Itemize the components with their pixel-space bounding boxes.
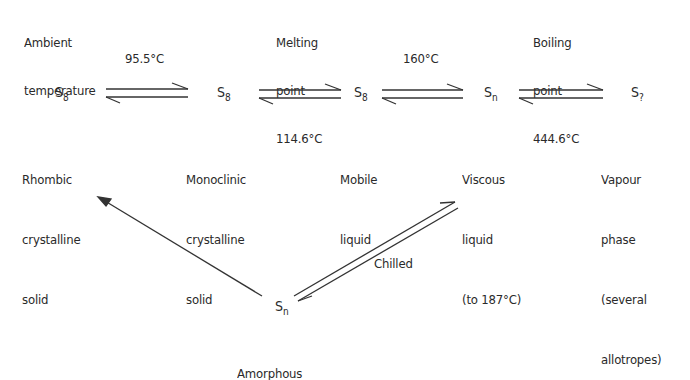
arrows-layer <box>0 0 690 380</box>
one-way-arrow-icon <box>98 197 262 296</box>
equilibrium-arrow-icon <box>382 84 463 104</box>
diagonal-equilibrium-arrow-icon <box>294 202 458 301</box>
equilibrium-arrow-icon <box>519 84 603 104</box>
sulfur-phase-diagram: Ambient temperature 95.5°C Melting point… <box>0 0 690 380</box>
equilibrium-arrow-icon <box>259 84 341 104</box>
equilibrium-arrow-icon <box>106 83 188 103</box>
